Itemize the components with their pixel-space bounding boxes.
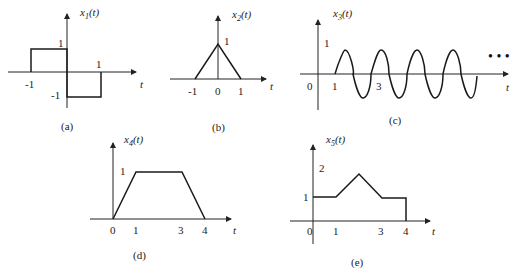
tick-x-minus1: -1 xyxy=(188,85,197,97)
tick-x-3: 3 xyxy=(376,80,382,92)
tick-x-3: 3 xyxy=(378,225,384,237)
tick-x-4: 4 xyxy=(403,225,409,237)
axis-label-t: t xyxy=(270,80,274,92)
title-x4: x4(t) xyxy=(123,133,144,148)
continuation-dots: • • • xyxy=(488,49,510,64)
axis-label-t: t xyxy=(432,225,436,237)
tick-x-1: 1 xyxy=(333,225,339,237)
title-x1: x1(t) xyxy=(79,6,100,21)
caption-e: (e) xyxy=(351,256,364,269)
tick-x-1: 1 xyxy=(238,85,244,97)
panel-a: x1(t) 1 1 -1 -1 t (a) xyxy=(8,6,144,133)
signal-x5 xyxy=(313,174,406,221)
tick-y-1: 1 xyxy=(303,191,309,203)
tick-y-1: 1 xyxy=(58,37,64,49)
panel-d: x4(t) 1 0 1 3 4 t (d) xyxy=(90,133,237,262)
tick-x-4: 4 xyxy=(202,224,208,236)
panel-b: x2(t) 1 -1 0 1 t (b) xyxy=(170,8,274,134)
tick-x-1: 1 xyxy=(96,58,102,70)
tick-y-1: 1 xyxy=(324,37,330,49)
tick-x-3: 3 xyxy=(178,224,184,236)
panel-c: x3(t) 1 0 1 3 t • • • (c) xyxy=(300,7,510,127)
signal-x1 xyxy=(31,49,101,97)
tick-x-minus1: -1 xyxy=(25,78,34,90)
panel-e: x5(t) 2 1 0 1 3 4 t (e) xyxy=(290,133,436,269)
signals-figure: x1(t) 1 1 -1 -1 t (a) x2(t) 1 -1 0 1 t (… xyxy=(0,0,525,276)
tick-x-1: 1 xyxy=(332,80,338,92)
tick-y-minus1: -1 xyxy=(51,89,60,101)
tick-y-1: 1 xyxy=(120,165,126,177)
title-x5: x5(t) xyxy=(325,133,346,148)
tick-x-1: 1 xyxy=(133,224,139,236)
tick-y-1: 1 xyxy=(224,35,230,47)
axis-label-t: t xyxy=(233,224,237,236)
tick-x-0: 0 xyxy=(307,80,313,92)
title-x3: x3(t) xyxy=(332,7,353,22)
axis-label-t: t xyxy=(140,78,144,90)
tick-x-0: 0 xyxy=(215,85,221,97)
tick-y-2: 2 xyxy=(319,162,325,174)
caption-c: (c) xyxy=(389,114,402,127)
title-x2: x2(t) xyxy=(231,8,252,23)
axis-label-t: t xyxy=(506,81,510,93)
signal-x4 xyxy=(113,172,205,219)
caption-d: (d) xyxy=(133,249,146,262)
tick-x-0: 0 xyxy=(307,225,313,237)
tick-x-0: 0 xyxy=(110,224,116,236)
caption-a: (a) xyxy=(61,120,74,133)
caption-b: (b) xyxy=(212,121,225,134)
